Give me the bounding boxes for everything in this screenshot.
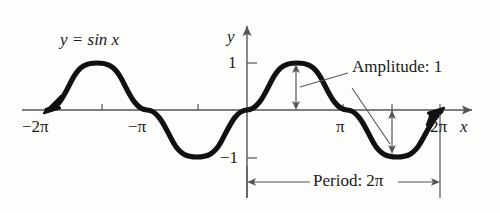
amplitude-arrow-trough <box>388 110 396 154</box>
x-tick-label-neg-2pi: −2π <box>22 118 49 135</box>
x-tick-label-pi: π <box>336 118 345 135</box>
amplitude-annotation-label: Amplitude: 1 <box>352 58 442 75</box>
x-tick-label-neg-pi: −π <box>128 118 146 135</box>
y-tick-label-neg-one: −1 <box>220 149 238 166</box>
amplitude-arrow-crest <box>292 64 300 110</box>
period-annotation-label: Period: 2π <box>313 172 383 189</box>
x-axis-name-label: x <box>460 118 468 135</box>
x-tick-label-2pi: 2π <box>430 118 447 135</box>
sine-function-figure: y = sin x y x −2π −π π 2π 1 −1 Amplitude… <box>0 0 500 213</box>
y-tick-label-one: 1 <box>228 54 237 71</box>
curve-equation-label: y = sin x <box>60 31 119 48</box>
y-axis-name-label: y <box>227 28 235 45</box>
